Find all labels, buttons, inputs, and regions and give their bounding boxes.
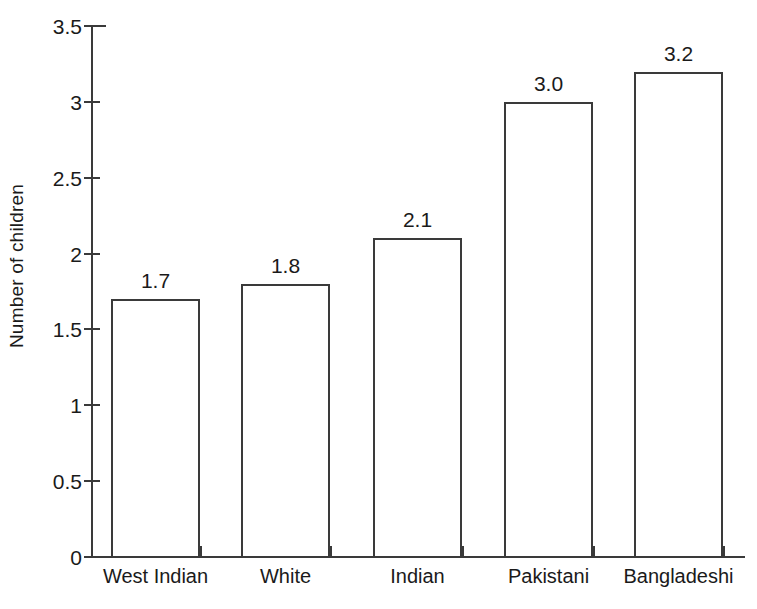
y-axis-tick-mark — [84, 25, 106, 27]
bar-value-label: 3.2 — [634, 43, 723, 64]
bar-chart: Number of children 00.511.522.533.5 1.71… — [0, 0, 757, 609]
bar-value-label: 2.1 — [373, 209, 462, 230]
x-axis-tick-mark — [200, 546, 202, 557]
y-axis-tick-mark — [84, 101, 100, 103]
y-axis-tick-label: 1.5 — [36, 319, 82, 340]
y-axis-title-text: Number of children — [6, 183, 28, 347]
y-axis-tick-labels: 00.511.522.533.5 — [36, 0, 82, 609]
bar — [111, 299, 200, 558]
y-axis-tick-label: 0.5 — [36, 471, 82, 492]
y-axis-tick-label: 1 — [36, 395, 82, 416]
bar — [634, 72, 723, 558]
y-axis-line — [91, 26, 93, 558]
bar-value-label: 1.8 — [241, 255, 330, 276]
y-axis-tick-mark — [84, 404, 100, 406]
y-axis-tick-mark — [84, 556, 100, 558]
y-axis-tick-mark — [84, 253, 100, 255]
bar — [504, 102, 593, 558]
y-axis-title: Number of children — [0, 0, 34, 531]
x-axis-category-label: Bangladeshi — [579, 566, 757, 586]
x-axis-tick-mark — [462, 546, 464, 557]
y-axis-tick-label: 2.5 — [36, 167, 82, 188]
y-axis-tick-mark — [84, 177, 100, 179]
x-axis-tick-mark — [723, 546, 725, 557]
x-axis-tick-mark — [593, 546, 595, 557]
bar-value-label: 3.0 — [504, 73, 593, 94]
y-axis-tick-mark — [84, 480, 100, 482]
y-axis-tick-label: 3 — [36, 91, 82, 112]
y-axis-tick-label: 3.5 — [36, 16, 82, 37]
x-axis-tick-mark — [330, 546, 332, 557]
bar — [241, 284, 330, 558]
y-axis-tick-mark — [84, 328, 100, 330]
y-axis-tick-label: 0 — [36, 547, 82, 568]
bar — [373, 238, 462, 558]
y-axis-tick-label: 2 — [36, 243, 82, 264]
bar-value-label: 1.7 — [111, 270, 200, 291]
